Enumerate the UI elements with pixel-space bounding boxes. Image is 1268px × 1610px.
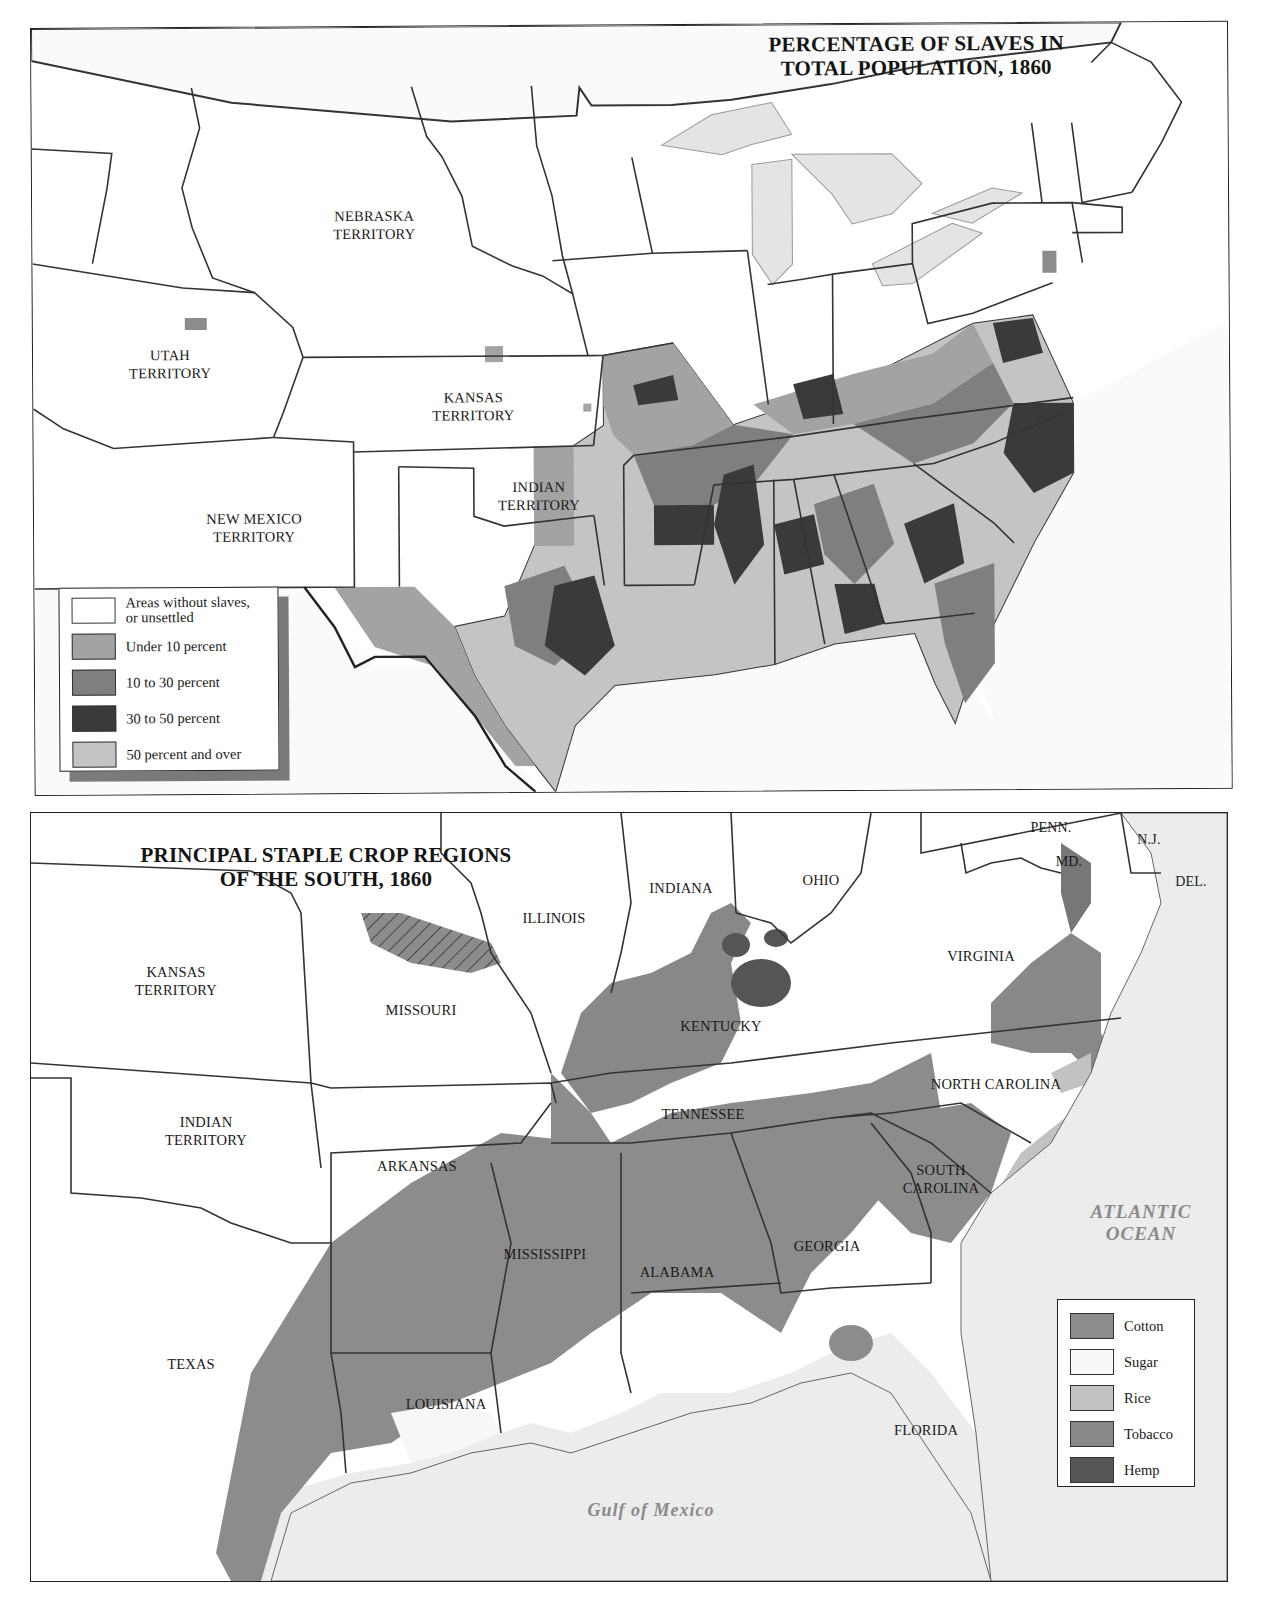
legend-swatch	[72, 633, 116, 659]
slave-percentage-legend: Areas without slaves, or unsettled Under…	[58, 586, 279, 771]
label-line: CAROLINA	[891, 1179, 991, 1197]
slave-percentage-map: PERCENTAGE OF SLAVES IN TOTAL POPULATION…	[30, 21, 1233, 796]
top-map-title: PERCENTAGE OF SLAVES IN TOTAL POPULATION…	[721, 30, 1111, 80]
label-nj: N.J.	[1129, 831, 1169, 849]
legend-swatch	[1070, 1385, 1114, 1411]
label-florida: FLORIDA	[876, 1421, 976, 1439]
label-utah-territory: UTAH TERRITORY	[115, 346, 225, 383]
label-kentucky: KENTUCKY	[671, 1017, 771, 1035]
legend-item-rice: Rice	[1070, 1380, 1194, 1416]
label-line: SOUTH	[891, 1161, 991, 1179]
legend-label: 10 to 30 percent	[126, 674, 220, 690]
label-louisiana: LOUISIANA	[391, 1395, 501, 1413]
label-line: TERRITORY	[418, 406, 528, 425]
legend-swatch	[1070, 1421, 1114, 1447]
legend-item-no-slaves: Areas without slaves, or unsettled	[71, 591, 277, 628]
label-ohio: OHIO	[791, 871, 851, 889]
label-line: TERRITORY	[484, 496, 594, 515]
legend-swatch	[72, 669, 116, 695]
legend-item-sugar: Sugar	[1070, 1344, 1194, 1380]
label-virginia: VIRGINIA	[931, 947, 1031, 965]
label-line: INDIAN	[484, 478, 594, 497]
legend-item-under-10: Under 10 percent	[72, 627, 278, 664]
legend-label: Areas without slaves, or unsettled	[125, 595, 250, 626]
legend-item-30-to-50: 30 to 50 percent	[72, 699, 278, 736]
legend-label: Tobacco	[1124, 1427, 1173, 1442]
label-illinois: ILLINOIS	[509, 909, 599, 927]
staple-crop-legend: Cotton Sugar Rice Tobacco Hemp	[1057, 1299, 1195, 1487]
label-nebraska-territory: NEBRASKA TERRITORY	[314, 207, 434, 244]
label-south-carolina: SOUTH CAROLINA	[891, 1161, 991, 1197]
label-gulf-of-mexico: Gulf of Mexico	[551, 1499, 751, 1521]
label-atlantic-ocean: ATLANTIC OCEAN	[1071, 1201, 1211, 1245]
label-texas: TEXAS	[151, 1355, 231, 1373]
label-kansas-territory: KANSAS TERRITORY	[121, 963, 231, 999]
label-line: OCEAN	[1071, 1223, 1211, 1245]
legend-label: Rice	[1124, 1391, 1151, 1406]
label-line: ATLANTIC	[1071, 1201, 1211, 1223]
legend-item-tobacco: Tobacco	[1070, 1416, 1194, 1452]
legend-label: 50 percent and over	[126, 746, 241, 762]
staple-crop-map: PRINCIPAL STAPLE CROP REGIONS OF THE SOU…	[30, 812, 1228, 1582]
label-line: TERRITORY	[314, 225, 434, 244]
bottom-map-title-line-2: OF THE SOUTH, 1860	[91, 867, 561, 891]
label-new-mexico-territory: NEW MEXICO TERRITORY	[184, 509, 324, 546]
legend-item-10-to-30: 10 to 30 percent	[72, 663, 278, 700]
label-line: TERRITORY	[121, 981, 231, 999]
label-line: TERRITORY	[184, 527, 324, 546]
top-map-title-line-2: TOTAL POPULATION, 1860	[721, 54, 1111, 80]
legend-swatch	[72, 741, 116, 767]
label-md: MD.	[1049, 853, 1089, 871]
label-indian-territory: INDIAN TERRITORY	[151, 1113, 261, 1149]
legend-label: Under 10 percent	[126, 638, 227, 654]
legend-swatch	[1070, 1457, 1114, 1483]
label-indian-territory: INDIAN TERRITORY	[484, 478, 594, 515]
label-line: TERRITORY	[151, 1131, 261, 1149]
legend-label: Hemp	[1124, 1463, 1159, 1478]
label-penn: PENN.	[1021, 819, 1081, 837]
label-line: UTAH	[115, 346, 225, 365]
label-arkansas: ARKANSAS	[367, 1157, 467, 1175]
label-line: NEBRASKA	[314, 207, 434, 226]
label-line: KANSAS	[418, 388, 528, 407]
label-missouri: MISSOURI	[371, 1001, 471, 1019]
label-line: NEW MEXICO	[184, 509, 324, 528]
legend-item-cotton: Cotton	[1070, 1308, 1194, 1344]
label-georgia: GEORGIA	[777, 1237, 877, 1255]
label-north-carolina: NORTH CAROLINA	[901, 1075, 1091, 1093]
label-line: INDIAN	[151, 1113, 261, 1131]
top-map-title-line-1: PERCENTAGE OF SLAVES IN	[721, 30, 1111, 56]
legend-swatch	[72, 705, 116, 731]
legend-label: Sugar	[1124, 1355, 1158, 1370]
legend-swatch	[71, 597, 115, 623]
label-kansas-territory: KANSAS TERRITORY	[418, 388, 528, 425]
label-indiana: INDIANA	[641, 879, 721, 897]
label-del: DEL.	[1171, 873, 1211, 891]
legend-item-50-and-over: 50 percent and over	[72, 735, 278, 772]
legend-swatch	[1070, 1349, 1114, 1375]
legend-label: Cotton	[1124, 1319, 1163, 1334]
bottom-map-title: PRINCIPAL STAPLE CROP REGIONS OF THE SOU…	[91, 843, 561, 891]
legend-label-line: or unsettled	[126, 610, 251, 626]
legend-swatch	[1070, 1313, 1114, 1339]
bottom-map-title-line-1: PRINCIPAL STAPLE CROP REGIONS	[91, 843, 561, 867]
label-line: TERRITORY	[115, 364, 225, 383]
label-mississippi: MISSISSIPPI	[485, 1245, 605, 1263]
legend-label: 30 to 50 percent	[126, 710, 220, 726]
staple-crop-map-geography	[31, 813, 1227, 1581]
label-line: KANSAS	[121, 963, 231, 981]
label-tennessee: TENNESSEE	[643, 1105, 763, 1123]
label-alabama: ALABAMA	[627, 1263, 727, 1281]
legend-item-hemp: Hemp	[1070, 1452, 1194, 1488]
